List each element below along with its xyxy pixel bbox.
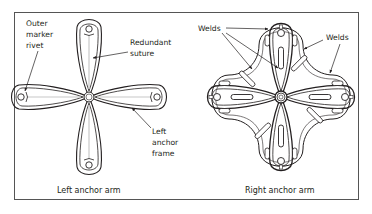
label-welds-left: Welds (198, 24, 221, 33)
caption-left-anchor-arm: Left anchor arm (57, 186, 121, 195)
anchor-arm-diagram: Outer marker rivet Redundant suture Left… (0, 0, 372, 214)
caption-right-anchor-arm: Right anchor arm (245, 186, 315, 195)
label-welds-right: Welds (326, 33, 349, 42)
